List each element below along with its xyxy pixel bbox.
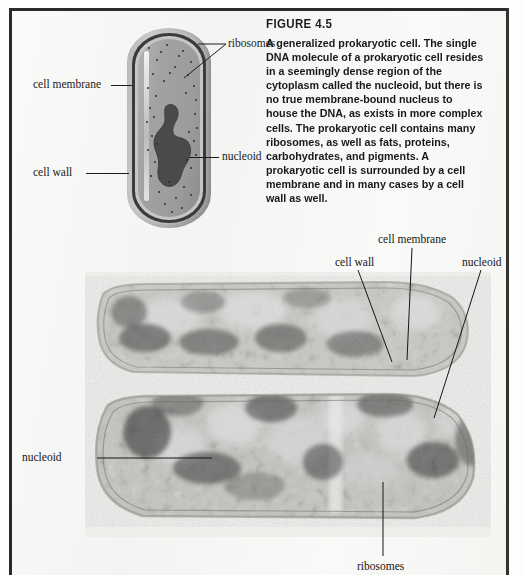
micrograph-label-cell-membrane: cell membrane <box>378 233 446 245</box>
page-frame-right <box>506 8 509 575</box>
micrograph-label-ribosomes: ribosomes <box>357 560 404 572</box>
diagram-label-cell-wall: cell wall <box>33 166 72 178</box>
cell-wall-leader-line <box>86 173 129 174</box>
cell-membrane-leader-line <box>111 85 133 86</box>
figure-page: FIGURE 4.5 A generalized prokaryotic cel… <box>0 0 524 575</box>
electron-micrograph <box>85 272 491 537</box>
nucleoid-leader-line <box>189 157 219 158</box>
prokaryotic-cell-diagram: ribosomes cell membrane cell wall nucleo… <box>14 14 264 228</box>
diagram-label-cell-membrane: cell membrane <box>33 78 101 90</box>
micrograph-label-nucleoid-top: nucleoid <box>462 256 502 268</box>
figure-caption-block: FIGURE 4.5 A generalized prokaryotic cel… <box>266 17 490 205</box>
micrograph-image <box>85 272 491 537</box>
ribosomes-leader-line <box>164 38 228 82</box>
page-frame-left <box>9 8 12 575</box>
micrograph-label-cell-wall: cell wall <box>335 256 374 268</box>
micrograph-label-nucleoid-left: nucleoid <box>22 451 62 463</box>
nucleoid-shape <box>152 103 192 189</box>
diagram-label-nucleoid: nucleoid <box>222 150 262 162</box>
figure-heading: FIGURE 4.5 <box>266 17 472 31</box>
cytoplasm-highlight <box>144 51 149 201</box>
diagram-label-ribosomes: ribosomes <box>228 37 275 49</box>
figure-caption-text: A generalized prokaryotic cell. The sing… <box>266 36 486 205</box>
page-frame-top <box>9 8 509 11</box>
